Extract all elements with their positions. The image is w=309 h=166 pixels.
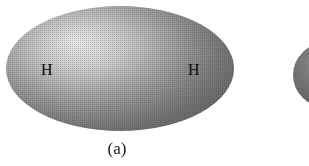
adjacent-figure-fragment — [293, 42, 309, 108]
atom-label-hydrogen-right: H — [188, 62, 200, 78]
figure-caption: (a) — [0, 140, 234, 157]
halftone-texture-overlay-partial — [293, 42, 309, 108]
figure-panel-a: H H (a) — [0, 0, 309, 166]
atom-label-hydrogen-left: H — [41, 62, 53, 78]
